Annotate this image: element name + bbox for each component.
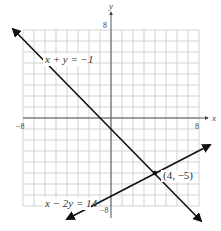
y-max-tick: 8 xyxy=(103,21,107,30)
axes xyxy=(23,12,208,218)
y-min-tick: −8 xyxy=(100,206,109,215)
x-max-tick: 8 xyxy=(195,122,199,131)
intersection-label: (4, −5) xyxy=(163,169,193,182)
equation-label-2: x − 2y = 14 xyxy=(44,197,98,209)
intersection-point xyxy=(153,171,157,175)
x-min-tick: −8 xyxy=(16,122,25,131)
line-x-plus-y-eq-neg1 xyxy=(13,29,201,221)
y-axis-label: y xyxy=(108,1,113,11)
coordinate-graph: x y 8 −8 8 −8 x + y = −1 x − 2y = 14 (4,… xyxy=(0,0,221,231)
equation-label-1: x + y = −1 xyxy=(44,53,94,65)
x-axis-label: x xyxy=(211,113,216,123)
